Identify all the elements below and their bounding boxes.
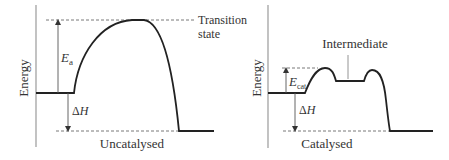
- catalysed-caption: Catalysed: [301, 136, 353, 151]
- activation-energy-label: Ea: [60, 50, 73, 67]
- catalysed-activation-energy-label: Ecat: [288, 74, 307, 91]
- uncatalysed-panel: Energy Ea ΔH Transition state Uncatalyse…: [16, 5, 250, 151]
- enthalpy-change-label: ΔH: [299, 103, 317, 117]
- catalysed-panel: Energy Ecat ΔH Intermediate Catalysed: [249, 5, 433, 151]
- energy-profile-diagram: Energy Ea ΔH Transition state Uncatalyse…: [0, 0, 449, 160]
- uncatalysed-energy-curve: [36, 20, 214, 131]
- energy-axis-label: Energy: [249, 59, 264, 97]
- transition-state-label: Transition state: [198, 13, 250, 41]
- enthalpy-change-label: ΔH: [72, 104, 90, 118]
- energy-axis-label: Energy: [16, 59, 31, 97]
- uncatalysed-caption: Uncatalysed: [100, 136, 165, 151]
- intermediate-label: Intermediate: [322, 36, 388, 51]
